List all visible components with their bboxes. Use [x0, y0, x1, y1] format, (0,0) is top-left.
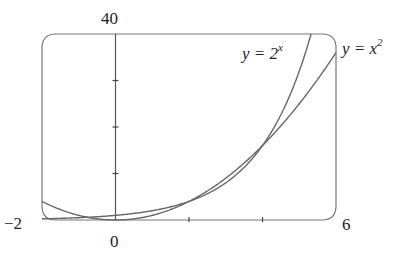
curve-label-exponential-text: y = 2 — [242, 44, 278, 63]
x-axis-max-label: 6 — [342, 216, 351, 233]
viewing-rectangle — [42, 34, 336, 220]
curve-label-quadratic: y = x2 — [342, 40, 383, 57]
x-axis-min-label: −2 — [4, 215, 22, 232]
y-axis-max-label: 40 — [101, 10, 118, 27]
x-axis-origin-label: 0 — [110, 233, 119, 250]
curve-label-exponential: y = 2x — [242, 45, 283, 62]
graph-plot — [0, 0, 396, 276]
curve-quadratic — [42, 53, 336, 220]
curve-label-quadratic-exponent: 2 — [377, 36, 383, 48]
curve-label-quadratic-text: y = x — [342, 39, 377, 58]
curve-label-exponential-exponent: x — [278, 41, 283, 53]
